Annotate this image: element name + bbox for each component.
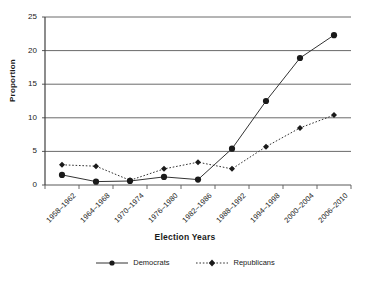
data-point-democrats bbox=[93, 179, 99, 185]
data-point-democrats bbox=[263, 98, 269, 104]
series-line-republicans bbox=[62, 115, 334, 180]
x-axis-title: Election Years bbox=[0, 232, 370, 242]
data-point-democrats bbox=[229, 146, 235, 152]
data-point-republicans bbox=[263, 144, 269, 150]
y-tick-label: 0 bbox=[15, 181, 37, 189]
data-point-democrats bbox=[297, 55, 303, 61]
legend-item-democrats: Democrats bbox=[95, 258, 169, 268]
data-point-republicans bbox=[59, 162, 65, 168]
y-tick-label: 20 bbox=[15, 47, 37, 55]
y-tick-label: 25 bbox=[15, 13, 37, 21]
legend-label-democrats: Democrats bbox=[133, 259, 169, 267]
data-point-republicans bbox=[93, 163, 99, 169]
data-point-democrats bbox=[59, 172, 65, 178]
legend-label-republicans: Republicans bbox=[233, 259, 274, 267]
line-chart: Proportion Election Years Democrats Repu… bbox=[0, 0, 370, 283]
legend-swatch-democrats bbox=[95, 258, 129, 268]
y-tick-label: 5 bbox=[15, 147, 37, 155]
data-point-democrats bbox=[331, 32, 337, 38]
chart-legend: Democrats Republicans bbox=[0, 258, 370, 268]
data-point-republicans bbox=[195, 159, 201, 165]
data-point-republicans bbox=[297, 125, 303, 131]
data-point-republicans bbox=[331, 112, 337, 118]
legend-item-republicans: Republicans bbox=[195, 258, 274, 268]
data-point-republicans bbox=[229, 166, 235, 172]
data-point-republicans bbox=[161, 166, 167, 172]
y-tick-label: 15 bbox=[15, 80, 37, 88]
data-point-democrats bbox=[161, 174, 167, 180]
legend-swatch-republicans bbox=[195, 258, 229, 268]
data-point-democrats bbox=[195, 177, 201, 183]
y-tick-label: 10 bbox=[15, 114, 37, 122]
